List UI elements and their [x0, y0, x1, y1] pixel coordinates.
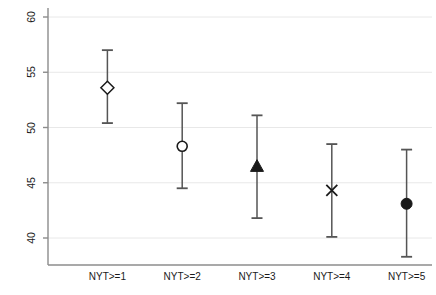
- axis-lines: [48, 8, 432, 265]
- y-tick-label: 45: [24, 173, 38, 193]
- error-bars: [102, 50, 412, 257]
- y-tick-label: 50: [24, 118, 38, 138]
- tick-marks: [43, 17, 48, 238]
- marker-filled-circle: [401, 198, 412, 209]
- x-tick-label: NYT>=4: [297, 271, 367, 282]
- x-tick-label: NYT>=2: [147, 271, 217, 282]
- y-tick-label: 55: [24, 62, 38, 82]
- x-tick-label: NYT>=5: [372, 271, 436, 282]
- y-tick-label: 60: [24, 7, 38, 27]
- marker-open-diamond: [101, 81, 114, 94]
- marker-filled-triangle: [251, 160, 264, 172]
- marker-open-circle: [177, 141, 187, 151]
- plot-area: [0, 0, 436, 295]
- y-tick-label: 40: [24, 228, 38, 248]
- x-tick-label: NYT>=3: [222, 271, 292, 282]
- chart-container: Percent issues gridlocked 4045505560 NYT…: [0, 0, 436, 295]
- x-tick-label: NYT>=1: [72, 271, 142, 282]
